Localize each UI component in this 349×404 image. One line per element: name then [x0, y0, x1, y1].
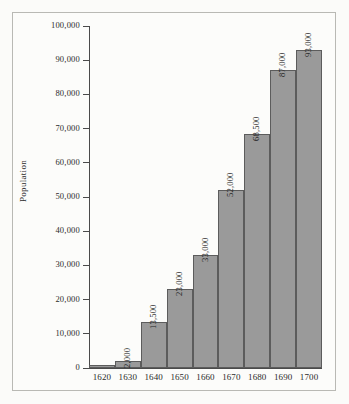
bar-value-label: 87,000: [277, 53, 287, 78]
bar-1700: [296, 50, 322, 368]
bar-1650: [167, 289, 193, 368]
x-axis-line: [89, 368, 322, 369]
bar-value-label: 13,500: [148, 304, 158, 329]
y-tick-label: 90,000: [20, 54, 80, 64]
x-tick-label: 1670: [218, 372, 244, 382]
bar-value-label: 68,500: [251, 116, 261, 141]
y-tick-label: 20,000: [20, 294, 80, 304]
x-tick-label: 1620: [89, 372, 115, 382]
x-tick-label: 1660: [193, 372, 219, 382]
y-tick-label: 30,000: [20, 259, 80, 269]
bar-1680: [244, 134, 270, 368]
figure-container: Population 010,00020,00030,00040,00050,0…: [0, 0, 349, 404]
y-tick-label: 80,000: [20, 88, 80, 98]
bar-value-label: 23,000: [174, 272, 184, 297]
y-tick-label: 60,000: [20, 157, 80, 167]
bar-value-label: 33,000: [200, 238, 210, 263]
x-tick-label: 1680: [244, 372, 270, 382]
x-tick-label: 1650: [167, 372, 193, 382]
y-tick-label: 70,000: [20, 123, 80, 133]
bar-value-label: 52,000: [225, 173, 235, 198]
y-tick-label: 100,000: [20, 20, 80, 30]
y-tick-label: 10,000: [20, 328, 80, 338]
y-tick-label: 40,000: [20, 225, 80, 235]
bar-value-label: 2,000: [122, 348, 132, 368]
x-tick-label: 1690: [270, 372, 296, 382]
bar-1690: [270, 70, 296, 368]
bar-1670: [218, 190, 244, 368]
x-tick-label: 1630: [115, 372, 141, 382]
bar-1660: [193, 255, 219, 368]
bars-layer: 2,00013,50023,00033,00052,00068,50087,00…: [89, 26, 322, 368]
y-tick-label: 0: [20, 362, 80, 372]
x-tick-label: 1700: [296, 372, 322, 382]
x-tick-label: 1640: [141, 372, 167, 382]
bar-1620: [89, 365, 115, 368]
y-tick-label: 50,000: [20, 191, 80, 201]
bar-value-label: 93,000: [303, 32, 313, 57]
